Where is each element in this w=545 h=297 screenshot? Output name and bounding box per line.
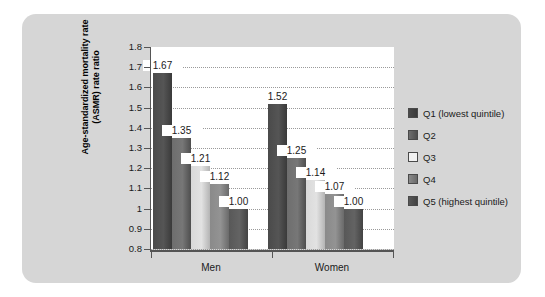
y-tick-mark <box>144 188 150 189</box>
plot-area: 1.671.351.211.121.001.521.251.141.071.00 <box>151 47 394 249</box>
bar-q5-women <box>344 209 363 249</box>
y-tick-label: 1.6 <box>114 82 142 92</box>
x-tick-mark <box>393 252 394 258</box>
x-category-label-men: Men <box>166 262 256 273</box>
y-tick-label: 1.7 <box>114 62 142 72</box>
y-tick-label: 1.8 <box>114 42 142 52</box>
legend-item-q4[interactable]: Q4 <box>408 168 508 190</box>
bar-value-label: 1.67 <box>143 60 183 71</box>
gridline <box>151 87 394 88</box>
y-tick-label: 1 <box>114 204 142 214</box>
legend-item-q5[interactable]: Q5 (highest quintile) <box>408 190 508 212</box>
chart-legend: Q1 (lowest quintile)Q2Q3Q4Q5 (highest qu… <box>408 102 508 212</box>
bar-q1-men <box>153 73 172 249</box>
legend-swatch-icon-q2 <box>408 130 418 140</box>
y-tick-mark <box>144 209 150 210</box>
legend-swatch-icon-q5 <box>408 196 418 206</box>
y-tick-mark <box>144 128 150 129</box>
legend-label: Q3 <box>423 152 436 163</box>
legend-label: Q5 (highest quintile) <box>423 196 508 207</box>
legend-label: Q1 (lowest quintile) <box>423 108 504 119</box>
legend-swatch-icon-q4 <box>408 174 418 184</box>
y-tick-label: 0.9 <box>114 224 142 234</box>
bar-value-label: 1.25 <box>277 145 317 156</box>
y-tick-mark <box>144 249 150 250</box>
bar-value-label: 1.35 <box>162 125 202 136</box>
legend-item-q1[interactable]: Q1 (lowest quintile) <box>408 102 508 124</box>
bar-value-label: 1.21 <box>181 153 221 164</box>
legend-item-q3[interactable]: Q3 <box>408 146 508 168</box>
y-tick-mark <box>144 67 150 68</box>
chart-figure: Age-standardized mortality rate (ASMR) r… <box>0 0 545 297</box>
y-axis-line <box>150 47 151 250</box>
legend-swatch-icon-q1 <box>408 108 418 118</box>
bar-q1-women <box>268 104 287 249</box>
y-tick-mark <box>144 47 150 48</box>
bar-value-label: 1.07 <box>315 181 355 192</box>
chart-panel: Age-standardized mortality rate (ASMR) r… <box>22 14 521 283</box>
y-tick-label: 1.4 <box>114 123 142 133</box>
y-tick-mark <box>144 148 150 149</box>
x-category-label-women: Women <box>287 262 377 273</box>
y-tick-mark <box>144 87 150 88</box>
y-axis-title: Age-standardized mortality rate (ASMR) r… <box>80 0 102 182</box>
bar-q4-men <box>210 184 229 249</box>
y-tick-label: 1.2 <box>114 163 142 173</box>
x-tick-mark <box>272 252 273 258</box>
y-tick-mark <box>144 229 150 230</box>
bar-value-label: 1.14 <box>296 167 336 178</box>
y-tick-label: 1.1 <box>114 183 142 193</box>
bar-value-label: 1.12 <box>200 171 240 182</box>
bar-q5-men <box>229 209 248 249</box>
y-tick-label: 1.3 <box>114 143 142 153</box>
legend-label: Q2 <box>423 130 436 141</box>
y-tick-label: 0.8 <box>114 244 142 254</box>
bar-value-label: 1.00 <box>219 196 259 207</box>
bar-value-label: 1.52 <box>258 91 298 102</box>
y-tick-label: 1.5 <box>114 103 142 113</box>
legend-item-q2[interactable]: Q2 <box>408 124 508 146</box>
legend-swatch-icon-q3 <box>408 152 418 162</box>
y-tick-mark <box>144 108 150 109</box>
x-tick-mark <box>151 252 152 258</box>
y-tick-mark <box>144 168 150 169</box>
gridline <box>151 67 394 68</box>
bar-value-label: 1.00 <box>334 196 374 207</box>
legend-label: Q4 <box>423 174 436 185</box>
